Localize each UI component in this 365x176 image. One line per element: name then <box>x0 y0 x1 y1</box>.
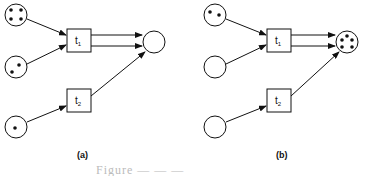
place-p2-a <box>5 56 27 78</box>
panel-a-label: (a) <box>77 150 88 160</box>
place-p3-b <box>204 116 226 138</box>
figure-caption: Figure — — — <box>96 163 276 176</box>
panel-a <box>5 4 165 138</box>
panel-b-label: (b) <box>276 150 288 160</box>
place-p1-b <box>204 4 226 26</box>
t1-label-b: t1 <box>275 35 282 47</box>
t2-label-b: t2 <box>275 95 282 107</box>
t2-label-a: t2 <box>75 95 82 107</box>
t1-label-a: t1 <box>75 35 82 47</box>
place-p4-a <box>143 31 165 53</box>
place-p2-b <box>204 56 226 78</box>
place-p1-a <box>5 4 27 26</box>
petri-net-figure: t1 t2 (a) t1 t2 (b) <box>0 0 365 176</box>
panel-b <box>204 4 358 138</box>
